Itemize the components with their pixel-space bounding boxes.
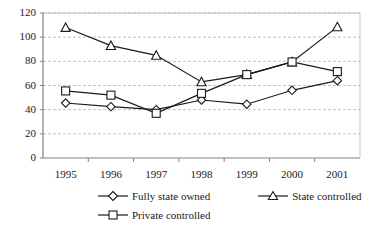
data-point [106,41,115,50]
square-marker-icon [98,209,128,221]
line-chart: 120100806040200 199519961997199819992000… [0,0,372,232]
data-point [243,71,251,79]
data-point [62,87,70,95]
legend-row-2: Private controlled [0,205,372,224]
x-tick-label: 1999 [222,168,272,180]
y-tick-label: 20 [0,127,36,139]
legend-item-private-controlled[interactable]: Private controlled [98,209,211,221]
y-tick-label: 100 [0,30,36,42]
legend-label: State controlled [292,190,361,202]
y-tick-label: 60 [0,79,36,91]
x-tick-label: 1996 [86,168,136,180]
data-point [288,58,296,66]
series-private-controlled [62,58,342,117]
legend-label: Fully state owned [132,190,210,202]
x-tick-label: 2000 [267,168,317,180]
series-line [66,62,338,113]
data-point [152,109,160,117]
data-point [333,76,341,84]
data-point [243,100,251,108]
y-tick-label: 0 [0,151,36,163]
x-tick-label: 1995 [41,168,91,180]
data-point [333,22,342,31]
gridlines [43,13,360,134]
data-point [107,91,115,99]
x-tick-label: 1998 [177,168,227,180]
chart-legend: Fully state owned State controlled [0,186,372,224]
y-tick-label: 40 [0,103,36,115]
legend-label: Private controlled [132,209,211,221]
data-point [288,86,296,94]
data-series-layer [61,22,342,117]
data-point [198,89,206,97]
data-point [61,99,69,107]
triangle-marker-icon [258,190,288,202]
x-axis-ticks [88,158,314,162]
series-state-controlled [61,22,342,85]
y-tick-label: 120 [0,6,36,18]
y-tick-label: 80 [0,54,36,66]
legend-item-fully-state-owned[interactable]: Fully state owned [98,190,210,202]
series-line [66,27,338,82]
diamond-marker-icon [98,190,128,202]
data-point [333,68,341,76]
x-tick-label: 1997 [131,168,181,180]
legend-item-state-controlled[interactable]: State controlled [258,190,361,202]
data-point [61,23,70,32]
x-tick-label: 2001 [312,168,362,180]
legend-row-1: Fully state owned State controlled [0,186,372,205]
